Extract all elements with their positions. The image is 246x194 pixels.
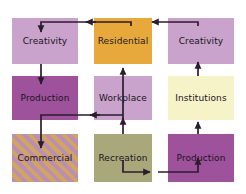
edge-residential-to-creativity-left — [41, 22, 131, 32]
edge-into-production-bottom-right — [158, 158, 198, 172]
edge-workplace-to-commercial — [41, 115, 123, 148]
diagram-canvas: Creativity Residential Creativity Produc… — [0, 0, 246, 194]
connector-layer — [0, 0, 246, 194]
edge-creativity-right-to-residential — [152, 22, 198, 26]
edge-recreation-to-production-right — [123, 160, 150, 172]
